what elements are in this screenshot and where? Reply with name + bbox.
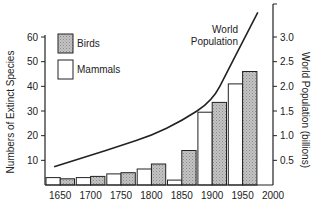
x-tick-label: 1700 [79, 190, 102, 201]
bar-mammals-1750 [107, 174, 121, 185]
x-tick-label: 1850 [171, 190, 194, 201]
world-population-label-line2: Population [191, 36, 238, 47]
extinction-population-chart: 1020304050600.51.01.52.02.53.01650170017… [0, 0, 316, 208]
bar-birds-1950 [243, 72, 257, 186]
bar-birds-1850 [182, 151, 196, 186]
legend-label-mammals: Mammals [77, 64, 120, 75]
y-tick-label: 10 [27, 155, 39, 166]
y-tick-label: 30 [27, 106, 39, 117]
x-tick-label: 1650 [49, 190, 72, 201]
y2-tick-label: 0.5 [280, 155, 294, 166]
legend-swatch-birds [58, 34, 73, 53]
y2-tick-label: 3.0 [280, 32, 294, 43]
x-tick-label: 1800 [140, 190, 163, 201]
x-tick-label: 2000 [262, 190, 285, 201]
bar-mammals-1850 [168, 180, 182, 185]
y-tick-label: 60 [27, 32, 39, 43]
x-tick-label: 1900 [201, 190, 224, 201]
x-tick-label: 1950 [231, 190, 254, 201]
y-tick-label: 20 [27, 130, 39, 141]
legend-label-birds: Birds [77, 38, 100, 49]
bar-mammals-1900 [198, 112, 212, 185]
bar-mammals-1650 [46, 178, 60, 185]
y-axis-title: Numbers of Extinct Species [5, 51, 16, 174]
y2-tick-label: 2.5 [280, 56, 294, 67]
y2-tick-label: 1.0 [280, 130, 294, 141]
y2-tick-label: 1.5 [280, 106, 294, 117]
world-population-label-line1: World [212, 24, 238, 35]
legend-swatch-mammals [58, 60, 73, 79]
bar-birds-1900 [212, 102, 226, 185]
y-tick-label: 40 [27, 81, 39, 92]
x-tick-label: 1750 [110, 190, 133, 201]
bar-birds-1750 [121, 173, 135, 185]
bar-mammals-1700 [76, 178, 90, 185]
bar-birds-1700 [91, 176, 105, 185]
legend: BirdsMammals [58, 34, 120, 79]
bar-mammals-1950 [228, 84, 242, 185]
y2-tick-label: 2.0 [280, 81, 294, 92]
bar-birds-1650 [60, 179, 74, 185]
y-tick-label: 50 [27, 56, 39, 67]
y2-axis-title: World Population (billions) [300, 52, 311, 168]
bar-birds-1800 [151, 164, 165, 185]
bar-group [46, 72, 257, 186]
bar-mammals-1800 [137, 169, 151, 185]
